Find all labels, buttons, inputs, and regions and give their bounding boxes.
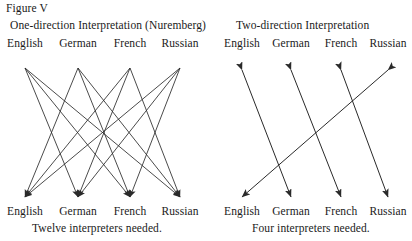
arrow-one-direction-4 <box>78 68 130 197</box>
right-top-label-english: English <box>224 37 260 49</box>
right-bottom-label-english: English <box>224 205 260 217</box>
arrow-one-direction-5 <box>78 68 180 197</box>
left-top-label-russian: Russian <box>161 37 198 49</box>
left-top-label-german: German <box>59 37 97 49</box>
arrow-one-direction-6 <box>25 68 130 197</box>
arrow-one-direction-3 <box>25 68 78 197</box>
right-top-label-russian: Russian <box>369 37 406 49</box>
left-bottom-label-french: French <box>114 205 147 217</box>
arrow-two-direction-3 <box>242 70 388 197</box>
left-top-label-french: French <box>114 37 147 49</box>
arrow-one-direction-7 <box>78 68 130 197</box>
left-bottom-label-english: English <box>7 205 43 217</box>
right-bottom-label-german: German <box>272 205 310 217</box>
right-bottom-label-russian: Russian <box>369 205 406 217</box>
arrow-one-direction-8 <box>130 68 180 197</box>
left-panel-edges <box>25 68 180 197</box>
arrow-one-direction-10 <box>78 68 180 197</box>
arrow-one-direction-1 <box>25 68 130 197</box>
left-bottom-label-russian: Russian <box>161 205 198 217</box>
right-panel-edges <box>242 70 388 197</box>
arrow-one-direction-9 <box>25 68 180 197</box>
arrow-two-direction-1 <box>291 70 341 197</box>
left-top-label-english: English <box>7 37 43 49</box>
panel-title-two-direction: Two-direction Interpretation <box>236 19 369 31</box>
arrow-two-direction-0 <box>242 70 291 197</box>
arrow-one-direction-2 <box>25 68 180 197</box>
figure-label: Figure V <box>6 2 48 14</box>
arrow-two-direction-2 <box>341 70 388 197</box>
caption-two-direction: Four interpreters needed. <box>252 222 370 234</box>
right-top-label-german: German <box>272 37 310 49</box>
panel-title-one-direction: One-direction Interpretation (Nuremberg) <box>10 19 206 31</box>
right-bottom-label-french: French <box>325 205 358 217</box>
left-bottom-label-german: German <box>59 205 97 217</box>
caption-one-direction: Twelve interpreters needed. <box>32 222 162 234</box>
arrow-one-direction-0 <box>25 68 78 197</box>
figure-container: Figure V One-direction Interpretation (N… <box>0 0 412 241</box>
right-top-label-french: French <box>325 37 358 49</box>
arrow-one-direction-11 <box>130 68 180 197</box>
